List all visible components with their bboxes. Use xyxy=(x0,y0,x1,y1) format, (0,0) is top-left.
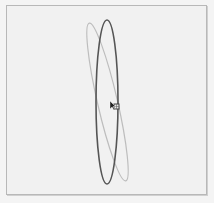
tilted-ellipse-shape[interactable] xyxy=(80,21,136,183)
canvas-shapes xyxy=(0,0,214,203)
upright-ellipse-shape[interactable] xyxy=(96,20,118,184)
